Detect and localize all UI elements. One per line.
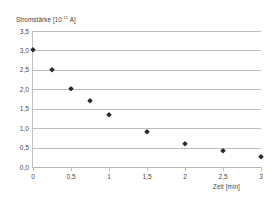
data-point (144, 129, 150, 135)
x-axis-tick-mark (147, 167, 148, 171)
gridline-y (33, 109, 261, 110)
gridline-y (33, 50, 261, 51)
gridline-y (33, 148, 261, 149)
y-axis-tick-label: 3,5 (5, 28, 29, 35)
x-axis-title: Zeit [min] (213, 183, 240, 190)
scatter-chart: Stromstärke [10-11 A] Zeit [min] 0,00,51… (0, 0, 273, 200)
x-axis-tick-mark (109, 167, 110, 171)
plot-area (33, 31, 261, 167)
x-axis-tick-mark (33, 167, 34, 171)
data-point (182, 141, 188, 147)
data-point (258, 154, 264, 160)
y-axis-tick-label: 1,5 (5, 105, 29, 112)
data-point (49, 67, 55, 73)
x-axis-tick-label: 1,5 (137, 173, 157, 180)
x-axis-tick-label: 0 (23, 173, 43, 180)
y-axis-title-main: Stromstärke [10 (16, 16, 62, 23)
x-axis-tick-mark (71, 167, 72, 171)
y-axis-tick-label: 0,5 (5, 144, 29, 151)
x-axis-tick-label: 1 (99, 173, 119, 180)
y-axis-tick-label: 0,0 (5, 164, 29, 171)
gridline-y (33, 70, 261, 71)
gridline-y (33, 31, 261, 32)
y-axis-tick-label: 2,0 (5, 86, 29, 93)
y-axis-title-tail: A] (68, 16, 76, 23)
x-axis-tick-mark (185, 167, 186, 171)
x-axis-tick-mark (261, 167, 262, 171)
x-axis-tick-label: 2 (175, 173, 195, 180)
data-point (87, 98, 93, 104)
x-axis-tick-label: 2,5 (213, 173, 233, 180)
y-axis-tick-label: 1,0 (5, 125, 29, 132)
x-axis-tick-label: 0,5 (61, 173, 81, 180)
y-axis-title: Stromstärke [10-11 A] (16, 15, 76, 23)
x-axis-tick-label: 3 (251, 173, 271, 180)
data-point (106, 111, 112, 117)
gridline-y (33, 89, 261, 90)
y-axis-tick-label: 2,5 (5, 66, 29, 73)
y-axis-tick-label: 3,0 (5, 47, 29, 54)
data-point (220, 148, 226, 154)
x-axis-tick-mark (223, 167, 224, 171)
